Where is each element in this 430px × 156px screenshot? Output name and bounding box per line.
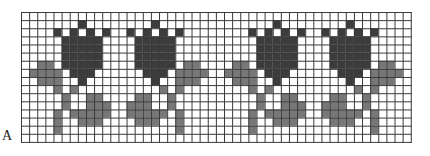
stitch-cell <box>338 69 346 77</box>
stitch-cell <box>378 61 386 69</box>
stitch-cell <box>281 36 289 44</box>
stitch-cell <box>330 93 338 101</box>
stitch-cell <box>159 44 167 52</box>
stitch-cell <box>192 61 200 69</box>
stitch-cell <box>321 28 329 36</box>
stitch-cell <box>289 53 297 61</box>
stitch-cell <box>256 53 264 61</box>
stitch-cell <box>265 36 273 44</box>
stitch-cell <box>70 69 78 77</box>
stitch-cell <box>240 61 248 69</box>
stitch-cell <box>167 36 175 44</box>
stitch-cell <box>281 44 289 52</box>
stitch-cell <box>346 109 354 117</box>
stitch-cell <box>273 20 281 28</box>
stitch-cell <box>346 118 354 126</box>
stitch-cell <box>370 85 378 93</box>
stitch-cell <box>70 109 78 117</box>
stitch-cell <box>62 53 70 61</box>
stitch-cell <box>338 53 346 61</box>
stitch-cell <box>127 109 135 117</box>
stitch-cell <box>256 44 264 52</box>
stitch-cell <box>102 109 110 117</box>
stitch-cell <box>94 53 102 61</box>
stitch-cell <box>62 44 70 52</box>
stitch-cell <box>127 101 135 109</box>
stitch-cell <box>70 44 78 52</box>
stitch-cell <box>370 77 378 85</box>
stitch-cell <box>232 77 240 85</box>
stitch-cell <box>265 109 273 117</box>
stitch-cell <box>362 36 370 44</box>
stitch-cell <box>94 93 102 101</box>
stitch-cell <box>338 118 346 126</box>
stitch-cell <box>167 101 175 109</box>
stitch-cell <box>338 28 346 36</box>
stitch-cell <box>321 101 329 109</box>
stitch-cell <box>273 53 281 61</box>
stitch-cell <box>175 109 183 117</box>
stitch-cell <box>94 101 102 109</box>
stitch-cell <box>378 77 386 85</box>
stitch-cell <box>362 61 370 69</box>
stitch-cell <box>265 28 273 36</box>
stitch-cell <box>70 36 78 44</box>
stitch-cell <box>346 36 354 44</box>
stitch-cell <box>192 69 200 77</box>
stitch-cell <box>78 44 86 52</box>
stitch-cell <box>78 36 86 44</box>
stitch-cell <box>256 93 264 101</box>
stitch-cell <box>159 53 167 61</box>
stitch-cell <box>297 28 305 36</box>
stitch-cell <box>151 77 159 85</box>
stitch-cell <box>62 36 70 44</box>
stitch-cell <box>354 44 362 52</box>
stitch-cell <box>362 101 370 109</box>
stitch-cell <box>248 85 256 93</box>
stitch-cell <box>175 126 183 134</box>
stitch-cell <box>330 53 338 61</box>
stitch-cell <box>354 69 362 77</box>
stitch-cell <box>62 101 70 109</box>
stitch-cell <box>354 36 362 44</box>
stitch-cell <box>159 36 167 44</box>
stitch-cell <box>248 126 256 134</box>
stitch-cell <box>53 77 61 85</box>
stitch-cell <box>151 109 159 117</box>
stitch-cell <box>200 69 208 77</box>
stitch-cell <box>273 61 281 69</box>
stitch-cell <box>192 77 200 85</box>
stitch-cell <box>362 53 370 61</box>
stitch-cell <box>62 93 70 101</box>
stitch-cell <box>151 36 159 44</box>
stitch-cell <box>151 20 159 28</box>
stitch-cell <box>102 101 110 109</box>
stitch-cell <box>281 118 289 126</box>
stitch-cell <box>354 28 362 36</box>
stitch-cell <box>143 61 151 69</box>
stitch-cell <box>62 61 70 69</box>
stitch-cell <box>86 61 94 69</box>
stitch-cell <box>273 109 281 117</box>
stitch-cell <box>78 77 86 85</box>
stitch-cell <box>183 61 191 69</box>
stitch-cell <box>346 53 354 61</box>
stitch-cell <box>281 109 289 117</box>
stitch-cell <box>86 101 94 109</box>
stitch-cell <box>273 36 281 44</box>
stitch-cell <box>151 53 159 61</box>
stitch-cell <box>45 77 53 85</box>
stitch-cell <box>127 28 135 36</box>
stitch-cell <box>354 109 362 117</box>
stitch-cell <box>281 28 289 36</box>
stitch-cell <box>70 85 78 93</box>
stitch-cell <box>289 109 297 117</box>
stitch-cell <box>151 44 159 52</box>
stitch-cell <box>135 44 143 52</box>
stitch-cell <box>78 109 86 117</box>
stitch-cell <box>135 109 143 117</box>
stitch-cell <box>240 77 248 85</box>
stitch-cell <box>53 109 61 117</box>
stitch-cell <box>53 85 61 93</box>
stitch-cell <box>78 118 86 126</box>
